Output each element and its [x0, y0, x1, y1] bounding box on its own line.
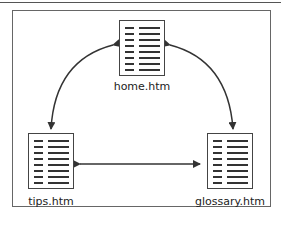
text-line: [139, 51, 160, 53]
tips-document-icon: [28, 133, 74, 189]
text-line: [213, 164, 222, 166]
text-line: [227, 182, 248, 184]
text-line: [227, 140, 248, 142]
text-line: [48, 176, 69, 178]
text-line: [139, 33, 160, 35]
text-line: [48, 170, 69, 172]
text-line: [227, 170, 248, 172]
text-line: [48, 152, 69, 154]
text-line: [48, 164, 69, 166]
text-line: [227, 152, 248, 154]
text-line: [139, 57, 160, 59]
glossary-label: glossary.htm: [195, 195, 265, 208]
text-line: [125, 27, 134, 29]
text-line: [34, 146, 43, 148]
text-line: [213, 146, 222, 148]
text-line: [213, 176, 222, 178]
text-line: [227, 158, 248, 160]
text-line: [213, 152, 222, 154]
text-line: [125, 33, 134, 35]
text-line: [34, 164, 43, 166]
text-line: [139, 45, 160, 47]
home-document-icon: [119, 20, 165, 76]
text-line: [34, 170, 43, 172]
text-line: [125, 51, 134, 53]
text-line: [125, 57, 134, 59]
text-line: [34, 158, 43, 160]
text-line: [125, 69, 134, 71]
arrow-home-tips: [51, 45, 113, 129]
text-line: [34, 152, 43, 154]
text-line: [213, 158, 222, 160]
text-line: [34, 176, 43, 178]
text-line: [125, 39, 134, 41]
tips-label: tips.htm: [28, 195, 74, 208]
home-label: home.htm: [114, 80, 171, 93]
text-line: [34, 182, 43, 184]
text-line: [48, 158, 69, 160]
text-line: [213, 170, 222, 172]
text-line: [139, 27, 160, 29]
text-line: [125, 45, 134, 47]
text-line: [139, 39, 160, 41]
text-line: [213, 140, 222, 142]
text-line: [125, 63, 134, 65]
text-line: [213, 182, 222, 184]
text-line: [139, 63, 160, 65]
text-line: [34, 140, 43, 142]
text-line: [48, 182, 69, 184]
text-line: [227, 146, 248, 148]
text-line: [48, 140, 69, 142]
text-line: [227, 176, 248, 178]
glossary-document-icon: [207, 133, 253, 189]
text-line: [227, 164, 248, 166]
text-line: [48, 146, 69, 148]
text-line: [139, 69, 160, 71]
arrow-home-glossary: [170, 45, 233, 129]
